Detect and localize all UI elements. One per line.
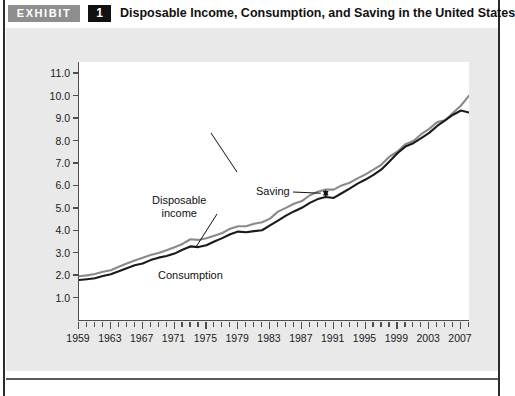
x-tick-mark-minor — [221, 322, 222, 327]
x-tick-mark-minor — [388, 322, 389, 327]
x-tick-mark-minor — [293, 322, 294, 327]
x-tick-label: 1999 — [385, 332, 408, 344]
x-tick-mark-minor — [118, 322, 119, 327]
footer-rule — [6, 378, 498, 380]
x-tick-mark-major — [205, 322, 206, 329]
x-tick-mark-minor — [357, 322, 358, 327]
x-tick-mark-minor — [436, 322, 437, 327]
y-tick-label: 8.0 — [36, 135, 70, 147]
x-tick-mark-minor — [468, 322, 469, 327]
x-tick-mark-minor — [181, 322, 182, 327]
x-tick-mark-major — [333, 322, 334, 329]
x-tick-label: 1979 — [225, 332, 248, 344]
x-tick-mark-minor — [189, 322, 190, 327]
y-tick-label: 1.0 — [36, 292, 70, 304]
annotation-disposable-income-line1: Disposable — [152, 194, 206, 206]
y-tick-label: 4.0 — [36, 224, 70, 236]
x-tick-mark-minor — [253, 322, 254, 327]
x-tick-mark-minor — [150, 322, 151, 327]
y-tick-label: 2.0 — [36, 269, 70, 281]
x-tick-label: 1971 — [162, 332, 185, 344]
x-tick-mark-major — [142, 322, 143, 329]
x-tick-mark-major — [237, 322, 238, 329]
x-tick-mark-minor — [102, 322, 103, 327]
x-tick-label: 2003 — [417, 332, 440, 344]
x-tick-mark-major — [460, 322, 461, 329]
x-tick-label: 1967 — [130, 332, 153, 344]
right-border-rule — [498, 0, 500, 396]
x-tick-mark-minor — [444, 322, 445, 327]
y-tick-label: 9.0 — [36, 112, 70, 124]
annotation-saving: Saving — [256, 185, 290, 198]
x-tick-mark-minor — [126, 322, 127, 327]
x-tick-mark-minor — [317, 322, 318, 327]
x-tick-label: 2007 — [448, 332, 471, 344]
y-tick-label: 3.0 — [36, 247, 70, 259]
x-tick-mark-minor — [166, 322, 167, 327]
x-tick-mark-minor — [309, 322, 310, 327]
x-tick-mark-minor — [229, 322, 230, 327]
x-tick-mark-minor — [372, 322, 373, 327]
y-tick-label: 6.0 — [36, 179, 70, 191]
annotation-disposable-income: Disposable income — [152, 194, 206, 220]
x-tick-mark-minor — [261, 322, 262, 327]
x-tick-mark-minor — [213, 322, 214, 327]
x-tick-mark-minor — [452, 322, 453, 327]
exhibit-header: EXHIBIT 1 Disposable Income, Consumption… — [6, 0, 498, 28]
x-tick-mark-major — [110, 322, 111, 329]
x-tick-mark-major — [301, 322, 302, 329]
x-tick-mark-minor — [380, 322, 381, 327]
x-tick-mark-minor — [420, 322, 421, 327]
x-tick-label: 1995 — [353, 332, 376, 344]
chart-panel: Trillions of 2005 dollars 1.02.03.04.05.… — [6, 28, 498, 371]
figure-footer — [6, 371, 498, 396]
x-tick-mark-major — [365, 322, 366, 329]
exhibit-number-badge: 1 — [88, 5, 111, 22]
annotation-consumption-label: Consumption — [158, 269, 223, 281]
exhibit-title: Disposable Income, Consumption, and Savi… — [120, 4, 515, 23]
x-tick-mark-minor — [412, 322, 413, 327]
x-tick-mark-minor — [404, 322, 405, 327]
x-tick-mark-minor — [94, 322, 95, 327]
x-tick-mark-major — [174, 322, 175, 329]
left-border-rule — [3, 0, 5, 396]
x-tick-label: 1991 — [321, 332, 344, 344]
x-tick-label: 1987 — [289, 332, 312, 344]
x-tick-mark-minor — [341, 322, 342, 327]
x-tick-mark-minor — [245, 322, 246, 327]
annotation-saving-label: Saving — [256, 185, 290, 197]
x-tick-mark-minor — [134, 322, 135, 327]
x-tick-mark-minor — [285, 322, 286, 327]
x-tick-mark-major — [78, 322, 79, 329]
y-tick-label: 5.0 — [36, 202, 70, 214]
x-tick-mark-minor — [325, 322, 326, 327]
y-tick-label: 7.0 — [36, 157, 70, 169]
x-tick-mark-major — [396, 322, 397, 329]
y-tick-label: 10.0 — [36, 90, 70, 102]
x-tick-mark-minor — [277, 322, 278, 327]
exhibit-badge: EXHIBIT — [8, 5, 80, 22]
x-tick-mark-minor — [158, 322, 159, 327]
x-tick-mark-minor — [197, 322, 198, 327]
x-tick-label: 1975 — [194, 332, 217, 344]
x-tick-label: 1959 — [66, 332, 89, 344]
x-tick-mark-major — [269, 322, 270, 329]
y-tick-label: 11.0 — [36, 67, 70, 79]
x-tick-label: 1963 — [98, 332, 121, 344]
x-tick-label: 1983 — [257, 332, 280, 344]
annotation-disposable-income-line2: income — [161, 207, 196, 219]
annotation-consumption: Consumption — [158, 269, 223, 282]
x-tick-mark-minor — [86, 322, 87, 327]
x-tick-mark-major — [428, 322, 429, 329]
x-tick-mark-minor — [349, 322, 350, 327]
